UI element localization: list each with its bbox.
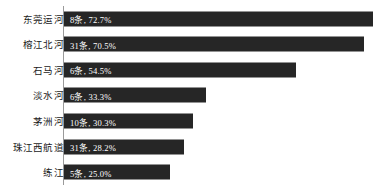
horizontal-bar-chart: 东莞运河8条, 72.7%榕江北河31条, 70.5%石马河6条, 54.5%淡… xyxy=(0,0,375,195)
bar-value-label: 8条, 72.7% xyxy=(64,13,112,25)
bar-container: 6条, 54.5% xyxy=(64,62,296,77)
category-label: 淡水河 xyxy=(33,88,64,102)
category-label: 榕江北河 xyxy=(23,37,64,51)
bar-row: 东莞运河8条, 72.7% xyxy=(0,6,375,32)
bar-row: 茅洲河10条, 30.3% xyxy=(0,108,375,134)
bar: 6条, 54.5% xyxy=(64,62,296,77)
bar-container: 10条, 30.3% xyxy=(64,114,193,129)
category-label: 珠江西航道 xyxy=(13,140,65,154)
bar-row: 淡水河6条, 33.3% xyxy=(0,83,375,109)
bar: 8条, 72.7% xyxy=(64,11,373,26)
category-label: 练江 xyxy=(43,165,64,179)
bar-row: 练江5条, 25.0% xyxy=(0,159,375,185)
category-label: 茅洲河 xyxy=(33,114,64,128)
bar-value-label: 10条, 30.3% xyxy=(64,115,116,127)
bar: 31条, 70.5% xyxy=(64,37,364,52)
bar-container: 8条, 72.7% xyxy=(64,11,373,26)
bar-container: 31条, 28.2% xyxy=(64,139,184,154)
bar-row: 珠江西航道31条, 28.2% xyxy=(0,134,375,160)
bar-container: 6条, 33.3% xyxy=(64,88,206,103)
bar-value-label: 5条, 25.0% xyxy=(64,166,112,178)
bar-value-label: 6条, 54.5% xyxy=(64,64,112,76)
bar: 10条, 30.3% xyxy=(64,114,193,129)
category-label: 石马河 xyxy=(33,63,64,77)
bar-container: 5条, 25.0% xyxy=(64,165,170,180)
plot-area: 东莞运河8条, 72.7%榕江北河31条, 70.5%石马河6条, 54.5%淡… xyxy=(0,0,375,195)
bar-value-label: 31条, 70.5% xyxy=(64,38,116,50)
bar: 6条, 33.3% xyxy=(64,88,206,103)
bar-rows: 东莞运河8条, 72.7%榕江北河31条, 70.5%石马河6条, 54.5%淡… xyxy=(0,6,375,185)
bar-row: 榕江北河31条, 70.5% xyxy=(0,32,375,58)
bar: 5条, 25.0% xyxy=(64,165,170,180)
bar-value-label: 6条, 33.3% xyxy=(64,89,112,101)
bar-container: 31条, 70.5% xyxy=(64,37,364,52)
bar-row: 石马河6条, 54.5% xyxy=(0,57,375,83)
bar-value-label: 31条, 28.2% xyxy=(64,141,116,153)
bar: 31条, 28.2% xyxy=(64,139,184,154)
category-label: 东莞运河 xyxy=(23,12,64,26)
